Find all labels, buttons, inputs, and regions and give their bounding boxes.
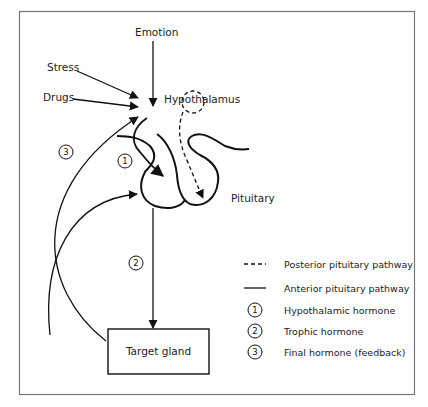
label-emotion: Emotion (135, 26, 178, 38)
pituitary-stalk (157, 134, 190, 204)
label-pituitary: Pituitary (231, 192, 275, 204)
label-stress: Stress (47, 61, 79, 73)
legend-label-posterior: Posterior pituitary pathway (284, 259, 413, 270)
label-target-gland: Target gland (125, 345, 191, 357)
legend-label-trophic: Trophic hormone (283, 326, 364, 337)
arrow-drugs (73, 99, 138, 107)
feedback-arrow-pituitary (49, 194, 137, 335)
legend-circle-3-text: 3 (252, 347, 257, 357)
anterior-pituitary-lobe (117, 136, 185, 208)
marker-3-text: 3 (63, 147, 68, 157)
legend: Posterior pituitary pathway Anterior pit… (244, 259, 413, 359)
legend-label-final: Final hormone (feedback) (284, 347, 406, 358)
label-drugs: Drugs (43, 91, 74, 103)
marker-1-text: 1 (122, 156, 127, 166)
legend-circle-2-text: 2 (252, 326, 257, 336)
legend-label-hypothalamic: Hypothalamic hormone (284, 305, 395, 316)
label-hypothalamus: Hypothalamus (164, 93, 240, 105)
diagram-canvas: Emotion Stress Drugs Hypothalamus 3 1 Pi… (0, 0, 428, 407)
legend-circle-1-text: 1 (252, 305, 257, 315)
marker-2-text: 2 (133, 258, 138, 268)
legend-label-anterior: Anterior pituitary pathway (284, 283, 410, 294)
arrow-stress (77, 71, 138, 98)
